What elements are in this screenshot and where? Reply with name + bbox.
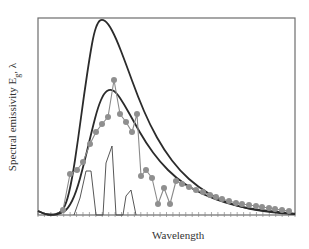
- data-point-marker: [179, 181, 185, 187]
- data-point-marker: [123, 119, 129, 125]
- data-point-marker: [286, 208, 292, 214]
- data-point-marker: [105, 114, 111, 120]
- data-point-marker: [67, 171, 73, 177]
- data-point-marker: [111, 77, 117, 83]
- data-point-marker: [200, 189, 206, 195]
- y-axis-label: Spectral emissivity Eg, λ: [6, 63, 21, 171]
- data-point-marker: [226, 198, 232, 204]
- data-point-marker: [279, 207, 285, 213]
- data-point-marker: [193, 187, 199, 193]
- data-point-marker: [134, 111, 140, 117]
- data-point-marker: [239, 201, 245, 207]
- data-point-marker: [233, 200, 239, 206]
- data-point-marker: [87, 141, 93, 147]
- data-point-marker: [149, 175, 155, 181]
- data-point-marker: [186, 184, 192, 190]
- data-point-marker: [60, 207, 66, 213]
- plot-frame: [38, 18, 295, 215]
- data-point-marker: [266, 205, 272, 211]
- data-point-marker: [93, 129, 99, 135]
- series-line-2: [63, 80, 289, 211]
- data-point-marker: [272, 206, 278, 212]
- x-axis-label: Wavelength: [152, 229, 204, 241]
- data-point-marker: [219, 196, 225, 202]
- data-point-marker: [129, 129, 135, 135]
- data-point-marker: [246, 202, 252, 208]
- series-line-3: [74, 146, 136, 215]
- data-point-marker: [161, 185, 167, 191]
- data-point-marker: [253, 203, 259, 209]
- data-point-marker: [99, 121, 105, 127]
- data-point-marker: [155, 201, 161, 207]
- spectral-emissivity-chart: [0, 0, 309, 249]
- data-point-marker: [138, 173, 144, 179]
- series-group: [38, 20, 295, 215]
- data-point-marker: [117, 111, 123, 117]
- data-point-marker: [207, 192, 213, 198]
- data-point-marker: [213, 194, 219, 200]
- data-point-marker: [74, 167, 80, 173]
- x-axis-ticks: [38, 212, 295, 217]
- data-point-marker: [173, 178, 179, 184]
- data-point-marker: [143, 167, 149, 173]
- data-point-marker: [259, 204, 265, 210]
- series-curve-0: [38, 20, 295, 215]
- data-point-marker: [80, 159, 86, 165]
- data-point-marker: [167, 201, 173, 207]
